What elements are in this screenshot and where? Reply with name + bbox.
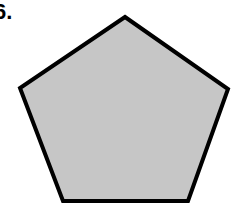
pentagon-figure	[0, 0, 233, 206]
pentagon-shape	[20, 17, 228, 201]
